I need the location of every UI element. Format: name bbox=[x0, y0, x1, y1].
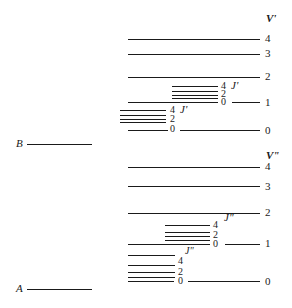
rot-axis-label: J" bbox=[185, 245, 194, 256]
vib-level-label: 0 bbox=[265, 276, 271, 287]
rot-level bbox=[165, 236, 210, 237]
rot-level bbox=[172, 91, 218, 92]
rot-level bbox=[128, 277, 175, 278]
rot-label: 0 bbox=[221, 97, 226, 107]
vib-axis-label-upper: V' bbox=[266, 13, 276, 24]
state-label-b: B bbox=[16, 138, 23, 149]
vib-level-label: 1 bbox=[265, 238, 271, 249]
rot-level bbox=[120, 110, 166, 111]
vib-level-label: 4 bbox=[265, 161, 271, 172]
vib-level-upper-2 bbox=[128, 77, 260, 78]
vib-level-lower-4 bbox=[128, 167, 260, 168]
rot-level bbox=[128, 265, 175, 266]
vib-level-label: 2 bbox=[265, 207, 271, 218]
vib-level-label: 4 bbox=[265, 33, 271, 44]
rot-level bbox=[165, 225, 210, 226]
vib-level-upper-1-tail bbox=[232, 102, 260, 103]
rot-axis-label: J' bbox=[231, 80, 238, 91]
vib-level-lower-3 bbox=[128, 186, 260, 187]
vib-level-upper-4 bbox=[128, 39, 260, 40]
rot-level bbox=[128, 272, 175, 273]
rot-level bbox=[172, 86, 218, 87]
vib-level-lower-2 bbox=[128, 213, 260, 214]
rot-label: 4 bbox=[178, 256, 183, 266]
vib-level-label: 1 bbox=[265, 97, 271, 108]
rot-level bbox=[165, 232, 210, 233]
vib-level-label: 3 bbox=[265, 181, 271, 192]
rot-level bbox=[120, 119, 166, 120]
rot-level bbox=[172, 95, 218, 96]
rot-level bbox=[120, 115, 166, 116]
rot-level bbox=[128, 255, 175, 256]
vib-level-upper-0-tail bbox=[180, 130, 260, 131]
vib-level-upper-3 bbox=[128, 54, 260, 55]
state-label-a: A bbox=[16, 283, 23, 294]
rot-label: 0 bbox=[178, 276, 183, 286]
vib-level-upper-0 bbox=[128, 130, 168, 131]
vib-level-label: 0 bbox=[265, 125, 271, 136]
vib-level-label: 2 bbox=[265, 71, 271, 82]
rot-level bbox=[165, 240, 210, 241]
vib-level-lower-0-tail bbox=[188, 281, 260, 282]
rot-axis-label: J" bbox=[224, 212, 234, 223]
electronic-level-b bbox=[27, 144, 92, 145]
vib-level-upper-1 bbox=[128, 102, 218, 103]
rot-axis-label: J' bbox=[180, 104, 187, 115]
vib-level-lower-1 bbox=[128, 244, 210, 245]
rot-level bbox=[120, 122, 166, 123]
rot-level bbox=[172, 98, 218, 99]
vib-level-lower-0 bbox=[128, 281, 174, 282]
rot-label: 0 bbox=[213, 239, 218, 249]
vib-level-lower-1-tail bbox=[225, 244, 260, 245]
vib-level-label: 3 bbox=[265, 48, 271, 59]
rot-label: 0 bbox=[170, 124, 175, 134]
electronic-level-a bbox=[27, 289, 92, 290]
